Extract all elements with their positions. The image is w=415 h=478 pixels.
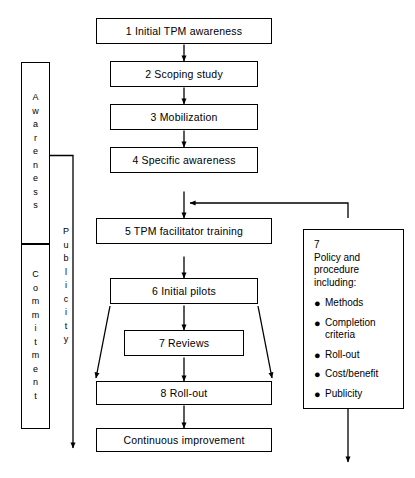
step-label-2: 2 Scoping study: [145, 68, 223, 80]
policy-title-text: Policy and procedure including:: [314, 252, 386, 290]
policy-list-item: ● Roll-out: [314, 349, 395, 362]
arrow-step6-step8-left: [96, 306, 110, 378]
publicity-letter: b: [63, 252, 68, 266]
commitment-letter: t: [34, 390, 37, 404]
commitment-letter: t: [34, 336, 37, 350]
step-label-1: 1 Initial TPM awareness: [126, 25, 242, 37]
step-box-continuous-improvement[interactable]: Continuous improvement: [96, 428, 272, 452]
awareness-letter: n: [33, 159, 38, 173]
commitment-letter: i: [34, 322, 36, 336]
phase-awareness-label: A w a r e n e s s: [21, 91, 50, 213]
commitment-letter: n: [33, 376, 38, 390]
commitment-letter: m: [32, 309, 40, 323]
bullet-icon: ●: [314, 368, 325, 381]
publicity-letter: u: [63, 239, 68, 253]
arrow-step6-step8-right: [258, 306, 272, 378]
awareness-letter: r: [34, 132, 37, 146]
policy-title: 7Policy and procedure including:: [314, 239, 395, 289]
publicity-letter: i: [65, 279, 67, 293]
commitment-letter: e: [33, 363, 38, 377]
step-label-5: 5 TPM facilitator training: [125, 225, 243, 237]
step-label-3: 3 Mobilization: [151, 111, 218, 123]
awareness-letter: a: [33, 118, 38, 132]
step-label-7: 7 Reviews: [159, 337, 209, 349]
awareness-letter: e: [33, 145, 38, 159]
step-label-9: Continuous improvement: [123, 434, 244, 446]
step-label-6: 6 Initial pilots: [152, 285, 216, 297]
awareness-letter: s: [33, 186, 38, 200]
policy-item-label: Methods: [325, 297, 395, 310]
step-label-8: 8 Roll-out: [161, 387, 208, 399]
bullet-icon: ●: [314, 388, 325, 401]
awareness-letter: w: [32, 105, 39, 119]
step-box-2[interactable]: 2 Scoping study: [110, 61, 258, 87]
awareness-letter: s: [33, 199, 38, 213]
bullet-icon: ●: [314, 297, 325, 310]
step-label-4: 4 Specific awareness: [132, 154, 235, 166]
commitment-letter: m: [32, 295, 40, 309]
publicity-letter: c: [64, 293, 69, 307]
commitment-letter: C: [32, 268, 39, 282]
tpm-flowchart: A w a r e n e s s C o m m i t m e n t P …: [0, 0, 415, 478]
step-box-6[interactable]: 6 Initial pilots: [110, 278, 258, 304]
policy-list-item: ● Methods: [314, 297, 395, 310]
policy-item-label: Publicity: [325, 388, 395, 401]
step-box-5[interactable]: 5 TPM facilitator training: [96, 218, 272, 244]
policy-item-label: Roll-out: [325, 349, 395, 362]
publicity-letter: P: [63, 225, 69, 239]
bullet-icon: ●: [314, 317, 325, 330]
policy-procedure-box[interactable]: 7Policy and procedure including: ● Metho…: [303, 229, 404, 409]
step-box-4[interactable]: 4 Specific awareness: [110, 147, 258, 173]
awareness-letter: A: [32, 91, 38, 105]
step-box-3[interactable]: 3 Mobilization: [110, 104, 258, 130]
step-box-8[interactable]: 8 Roll-out: [96, 381, 272, 405]
phase-commitment-label: C o m m i t m e n t: [21, 268, 50, 403]
publicity-letter: y: [64, 333, 69, 347]
publicity-letter: i: [65, 306, 67, 320]
bullet-icon: ●: [314, 349, 325, 362]
awareness-letter: e: [33, 172, 38, 186]
policy-list-item: ● Publicity: [314, 388, 395, 401]
step-box-1[interactable]: 1 Initial TPM awareness: [96, 18, 272, 44]
policy-item-label: Cost/benefit: [325, 368, 395, 381]
publicity-letter: l: [65, 266, 67, 280]
commitment-letter: o: [33, 282, 38, 296]
commitment-letter: m: [32, 349, 40, 363]
step-box-7[interactable]: 7 Reviews: [124, 330, 244, 356]
publicity-letter: t: [65, 320, 68, 334]
phase-publicity-label: P u b l i c i t y: [59, 225, 73, 347]
policy-list-item: ● Completion criteria: [314, 317, 395, 342]
policy-list-item: ● Cost/benefit: [314, 368, 395, 381]
policy-number: 7: [314, 239, 325, 252]
policy-item-label: Completion criteria: [325, 317, 395, 342]
arrow-policy-to-step5: [190, 203, 348, 218]
